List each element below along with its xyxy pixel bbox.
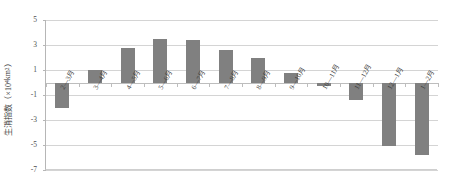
- y-tick-mark: [43, 95, 46, 96]
- x-tick-mark: [111, 83, 112, 87]
- x-tick-mark: [438, 83, 439, 87]
- x-tick-mark: [373, 83, 374, 87]
- bar: [382, 83, 396, 147]
- x-tick-mark: [275, 83, 276, 87]
- y-tick-label: 1: [0, 65, 37, 74]
- x-tick-mark: [46, 83, 47, 87]
- y-tick-label: 3: [0, 40, 37, 49]
- gridline--1: [46, 95, 438, 96]
- y-tick-label: -3: [0, 115, 37, 124]
- gridline-3: [46, 45, 438, 46]
- x-tick-mark: [340, 83, 341, 87]
- y-tick-label: -7: [0, 165, 37, 174]
- y-tick-label: 5: [0, 15, 37, 24]
- y-tick-mark: [43, 120, 46, 121]
- y-tick-mark: [43, 145, 46, 146]
- y-tick-mark: [43, 70, 46, 71]
- x-tick-mark: [307, 83, 308, 87]
- x-tick-mark: [177, 83, 178, 87]
- y-tick-mark: [43, 45, 46, 46]
- y-tick-label: -5: [0, 140, 37, 149]
- y-axis-title-exponent: 4: [4, 80, 10, 83]
- bar: [415, 83, 429, 156]
- y-tick-mark: [43, 20, 46, 21]
- bar-chart: 生消指数（×104 km2） 531-1-3-5-7 2—3月3—4月4—5月5…: [0, 0, 449, 195]
- gridline--7: [46, 170, 438, 171]
- x-tick-mark: [144, 83, 145, 87]
- y-tick-label: -1: [0, 90, 37, 99]
- gridline--5: [46, 145, 438, 146]
- x-tick-mark: [79, 83, 80, 87]
- x-tick-mark: [242, 83, 243, 87]
- gridline--3: [46, 120, 438, 121]
- y-tick-mark: [43, 170, 46, 171]
- gridline-5: [46, 20, 438, 21]
- x-tick-mark: [405, 83, 406, 87]
- plot-area: [45, 20, 437, 170]
- x-tick-mark: [209, 83, 210, 87]
